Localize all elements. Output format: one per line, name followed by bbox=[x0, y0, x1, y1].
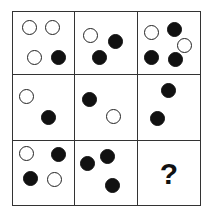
black-circle-icon bbox=[161, 83, 176, 98]
puzzle-cell bbox=[74, 140, 139, 206]
black-circle-icon bbox=[144, 50, 159, 65]
white-circle-icon bbox=[177, 38, 192, 53]
white-circle-icon bbox=[22, 20, 37, 35]
black-circle-icon bbox=[51, 50, 66, 65]
black-circle-icon bbox=[168, 52, 183, 67]
puzzle-cell bbox=[12, 140, 76, 206]
puzzle-cell bbox=[137, 11, 201, 76]
black-circle-icon bbox=[167, 22, 182, 37]
white-circle-icon bbox=[83, 28, 98, 43]
white-circle-icon bbox=[45, 20, 60, 35]
black-circle-icon bbox=[108, 34, 123, 49]
black-circle-icon bbox=[41, 110, 56, 125]
black-circle-icon bbox=[150, 111, 165, 126]
black-circle-icon bbox=[92, 50, 107, 65]
black-circle-icon bbox=[100, 149, 115, 164]
white-circle-icon bbox=[144, 25, 159, 40]
question-mark: ? bbox=[138, 157, 200, 191]
black-circle-icon bbox=[23, 171, 38, 186]
black-circle-icon bbox=[105, 178, 120, 193]
black-circle-icon bbox=[80, 156, 95, 171]
puzzle-cell bbox=[12, 74, 76, 142]
white-circle-icon bbox=[27, 50, 42, 65]
black-circle-icon bbox=[82, 92, 97, 107]
white-circle-icon bbox=[47, 172, 62, 187]
puzzle-cell bbox=[12, 11, 76, 76]
puzzle-cell bbox=[74, 11, 139, 76]
white-circle-icon bbox=[19, 89, 34, 104]
white-circle-icon bbox=[106, 109, 121, 124]
puzzle-cell bbox=[137, 74, 201, 142]
black-circle-icon bbox=[51, 147, 66, 162]
answer-cell: ? bbox=[137, 140, 201, 206]
white-circle-icon bbox=[19, 146, 34, 161]
puzzle-grid: ? bbox=[12, 11, 200, 205]
puzzle-cell bbox=[74, 74, 139, 142]
